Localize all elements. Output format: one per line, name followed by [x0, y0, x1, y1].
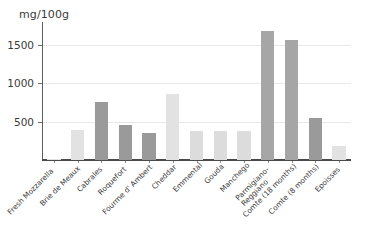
x-tick-mark: [101, 161, 102, 163]
y-tick-label: 1500: [0, 39, 34, 51]
bar[interactable]: [95, 102, 108, 160]
x-tick-mark: [125, 161, 126, 163]
bar-chart: mg/100g 50010001500 Fresh MozzarellaBrie…: [0, 0, 366, 243]
y-tick-label: 1000: [0, 77, 34, 89]
bar[interactable]: [261, 31, 274, 160]
x-tick-mark: [54, 161, 55, 163]
x-tick-mark: [149, 161, 150, 163]
bar[interactable]: [285, 40, 298, 160]
y-tick-label: 500: [0, 116, 34, 128]
bar[interactable]: [166, 94, 179, 160]
x-tick-mark: [339, 161, 340, 163]
bar[interactable]: [237, 131, 250, 160]
bar[interactable]: [309, 118, 322, 160]
x-tick-mark: [78, 161, 79, 163]
bar[interactable]: [47, 159, 60, 160]
y-axis-unit-label: mg/100g: [19, 8, 69, 21]
bar[interactable]: [190, 131, 203, 160]
bar[interactable]: [332, 146, 345, 160]
bar[interactable]: [214, 131, 227, 160]
bar[interactable]: [142, 133, 155, 160]
bar[interactable]: [119, 125, 132, 160]
bars-container: [42, 22, 351, 160]
bar[interactable]: [71, 130, 84, 160]
x-tick-mark: [268, 161, 269, 163]
